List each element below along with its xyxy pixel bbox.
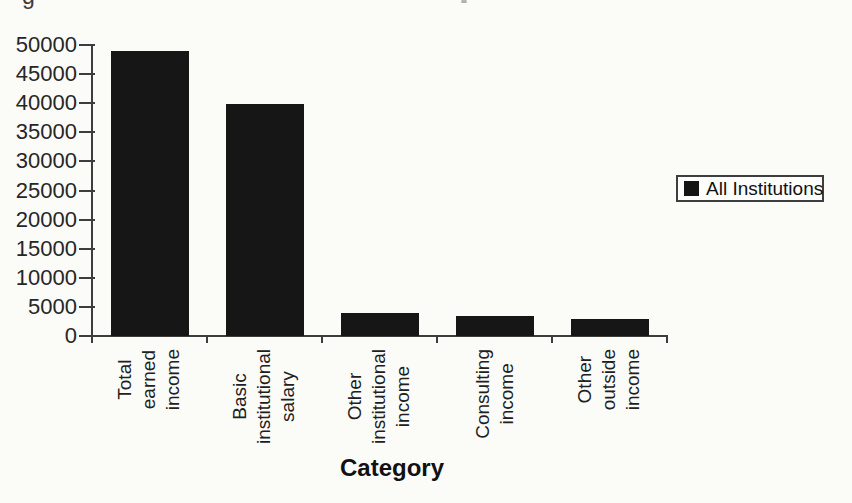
x-category-label: Consulting income [471, 349, 519, 439]
bar-basic-institutional-salary [226, 104, 304, 336]
y-axis-tick [79, 190, 95, 192]
y-axis-tick-label: 35000 [6, 120, 77, 144]
y-axis-tick-label: 15000 [6, 237, 77, 261]
bar-consulting-income [456, 316, 534, 336]
x-category-label: Other institutional income [344, 349, 416, 444]
bar-total-earned-income [111, 51, 189, 336]
legend-label: All Institutions [706, 178, 823, 200]
y-axis-tick [79, 277, 95, 279]
y-axis-tick [79, 248, 95, 250]
y-axis-tick-label: 45000 [6, 62, 77, 86]
x-axis-tick [551, 336, 553, 343]
y-axis-tick-label: 10000 [6, 266, 77, 290]
y-axis-tick-label: 20000 [6, 208, 77, 232]
bar-other-institutional-income [341, 313, 419, 336]
y-axis-tick [79, 219, 95, 221]
y-axis-tick-label: 50000 [6, 33, 77, 57]
legend-marker-swatch [684, 181, 699, 196]
x-axis-tick [321, 336, 323, 343]
scanned-bar-chart-figure: g 05000100001500020000250003000035000400… [0, 0, 852, 503]
y-axis-tick-label: 25000 [6, 179, 77, 203]
x-axis-tick [91, 336, 93, 343]
y-axis-tick-label: 40000 [6, 91, 77, 115]
y-axis-tick [79, 160, 95, 162]
x-category-label: Basic institutional salary [229, 349, 301, 444]
x-category-label: Total earned income [114, 349, 186, 410]
y-axis-tick-label: 0 [6, 324, 77, 348]
x-axis-tick [206, 336, 208, 343]
y-axis-tick-label: 30000 [6, 149, 77, 173]
x-axis-title: Category [292, 454, 492, 482]
legend: All Institutions [676, 175, 824, 202]
bar-other-outside-income [571, 319, 649, 336]
y-axis-tick [79, 102, 95, 104]
y-axis-tick [79, 73, 95, 75]
y-axis-tick [79, 44, 95, 46]
x-category-label: Other outside income [574, 349, 646, 410]
y-axis-tick [79, 306, 95, 308]
y-axis-tick-label: 5000 [6, 295, 77, 319]
bar-chart-plot-area: 0500010000150002000025000300003500040000… [0, 0, 852, 503]
x-axis-tick [436, 336, 438, 343]
y-axis-tick [79, 131, 95, 133]
x-axis-tick [666, 336, 668, 343]
